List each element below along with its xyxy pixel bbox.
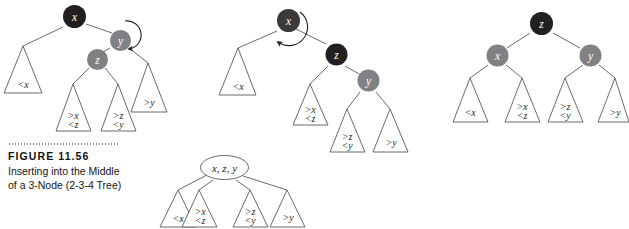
node-z-label: z — [94, 54, 100, 66]
node-x: x — [277, 9, 300, 32]
figure-number-label: FIGURE 11.56 — [8, 150, 133, 163]
node-y-label: y — [365, 75, 372, 88]
subtree-gt-x-lt-z-line-2: <z — [195, 215, 206, 226]
subtree-gt-y: >y — [598, 78, 629, 122]
node-z-label: z — [538, 18, 544, 30]
figure-caption-text: Inserting into the Middle of a 3-Node (2… — [8, 165, 138, 192]
node-x-label: x — [285, 15, 292, 27]
subtree-gt-y-line-1: >y — [609, 107, 621, 118]
node-xzy: x, z, y — [201, 156, 249, 180]
node-z: z — [87, 49, 108, 70]
node-z: z — [326, 44, 348, 66]
subtree-gt-z-lt-y: >z <y — [233, 190, 268, 227]
node-z-label: z — [333, 49, 339, 61]
node-y: y — [580, 45, 602, 67]
node-xzy-label: x, z, y — [211, 162, 237, 174]
subtree-lt-x-line-1: <x — [464, 107, 476, 118]
subtree-gt-y-line-1: >y — [143, 97, 155, 108]
subtree-gt-y: >y — [131, 63, 167, 112]
subtree-gt-z-lt-y: >z <y — [330, 109, 365, 152]
node-z: z — [530, 12, 553, 35]
subtree-lt-x: <x — [219, 48, 256, 95]
figure-illustration: x y z <x >x <z >z <y >y — [0, 0, 629, 229]
node-y-label: y — [587, 50, 594, 63]
subtree-gt-z-lt-y-line-2: <y — [112, 119, 124, 130]
subtree-gt-x-lt-z: >x <z — [505, 78, 540, 122]
subtree-gt-z-lt-y: >z <y — [101, 84, 136, 131]
subtree-lt-x-line-1: <x — [232, 81, 244, 92]
node-x-label: x — [494, 50, 501, 62]
subtree-gt-z-lt-y-line-2: <y — [341, 140, 353, 151]
node-x: x — [487, 45, 509, 67]
node-y: y — [358, 70, 380, 92]
subtree-gt-z-lt-y-line-2: <y — [244, 215, 256, 226]
subtree-gt-y-line-1: >y — [282, 212, 294, 223]
subtree-gt-z-lt-y: >z <y — [548, 78, 583, 122]
subtree-gt-y: >y — [373, 109, 408, 152]
diagram-tree-after-first-rotation: x z y <x >x <z >z <y >y — [219, 9, 408, 152]
node-x: x — [63, 5, 86, 28]
subtree-gt-x-lt-z-line-2: <z — [68, 119, 79, 130]
node-x-label: x — [71, 11, 78, 23]
edges — [23, 24, 148, 84]
subtree-gt-x-lt-z-line-2: <z — [517, 110, 528, 121]
subtree-gt-x-lt-z: >x <z — [56, 84, 91, 131]
subtree-gt-z-lt-y-line-2: <y — [559, 110, 571, 121]
subtree-gt-x-lt-z-line-2: <z — [305, 113, 316, 124]
diagram-tree-after-second-rotation: z x y <x >x <z >z <y >y — [453, 12, 629, 122]
caption-dotted-rule — [8, 143, 118, 145]
diagram-tree-equivalent-4-node: x, z, y <x >x <z >z <y >y — [160, 156, 305, 228]
figure-caption: FIGURE 11.56 Inserting into the Middle o… — [8, 143, 133, 192]
subtree-lt-x: <x — [453, 78, 488, 122]
figure-caption-line-2: of a 3-Node (2-3-4 Tree) — [8, 179, 138, 193]
figure-caption-line-1: Inserting into the Middle — [8, 165, 138, 179]
subtree-gt-y: >y — [270, 190, 305, 227]
node-y-label: y — [117, 35, 124, 48]
subtree-lt-x: <x — [4, 46, 42, 93]
subtree-gt-x-lt-z: >x <z — [293, 84, 328, 125]
subtree-gt-y-line-1: >y — [385, 137, 397, 148]
subtree-lt-x-line-1: <x — [17, 79, 29, 90]
node-y: y — [110, 30, 131, 51]
diagram-tree-before-rotation: x y z <x >x <z >z <y >y — [4, 5, 167, 131]
subtree-lt-x-line-1: <x — [172, 213, 184, 224]
